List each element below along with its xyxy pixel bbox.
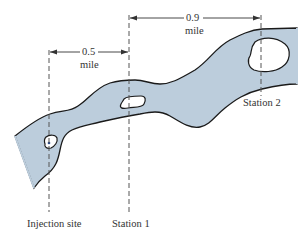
label-station-2: Station 2 xyxy=(243,98,281,109)
arrowhead-left-icon xyxy=(50,50,57,55)
dimension-unit-0-5: mile xyxy=(80,60,99,71)
river-drawing xyxy=(0,0,307,241)
label-station-1: Station 1 xyxy=(112,219,150,230)
arrowhead-right-icon xyxy=(253,16,260,21)
dimension-value-0-9: 0.9 xyxy=(186,13,199,24)
island-station2 xyxy=(248,38,289,72)
dimension-value-0-5: 0.5 xyxy=(82,47,95,58)
arrowhead-left-icon xyxy=(130,16,137,21)
label-injection-site: Injection site xyxy=(27,219,82,230)
river-diagram: 0.5 mile 0.9 mile Injection site Station… xyxy=(0,0,307,241)
dimension-unit-0-9: mile xyxy=(185,26,204,37)
arrowhead-right-icon xyxy=(121,50,128,55)
